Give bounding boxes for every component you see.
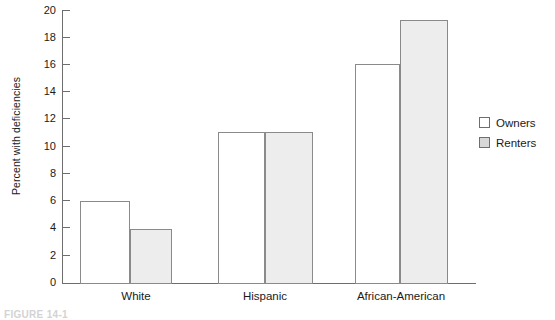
x-category-label-african-american: African-American (340, 290, 462, 302)
y-tick-mark (63, 146, 70, 147)
y-tick-20: 20 (16, 5, 56, 16)
y-tick-label: 4 (22, 222, 56, 233)
bar-hispanic-renters (265, 132, 313, 284)
bar-african-american-renters (400, 20, 448, 284)
y-tick-label: 10 (22, 141, 56, 152)
y-tick-8: 8 (16, 168, 56, 179)
y-tick-label: 0 (22, 277, 56, 288)
bar-white-renters (130, 229, 172, 284)
y-tick-label: 12 (22, 113, 56, 124)
figure-caption: FIGURE 14-1 (4, 309, 68, 320)
y-tick-16: 16 (16, 59, 56, 70)
y-tick-mark (63, 10, 70, 11)
y-tick-18: 18 (16, 32, 56, 43)
legend-item-renters: Renters (479, 134, 553, 151)
y-tick-mark (63, 118, 70, 119)
y-tick-0: 0 (16, 277, 56, 288)
x-category-label-white: White (86, 290, 186, 302)
bar-hispanic-owners (218, 132, 265, 284)
legend-label-owners: Owners (496, 117, 536, 129)
owners-swatch-icon (479, 117, 490, 128)
y-tick-label: 8 (22, 168, 56, 179)
y-tick-mark (63, 200, 70, 201)
y-tick-label: 6 (22, 195, 56, 206)
bar-african-american-owners (355, 64, 400, 284)
legend-item-owners: Owners (479, 114, 553, 131)
y-tick-mark (63, 173, 70, 174)
y-tick-12: 12 (16, 113, 56, 124)
y-tick-2: 2 (16, 250, 56, 261)
legend: Owners Renters (479, 114, 553, 154)
bar-white-owners (80, 201, 130, 284)
y-tick-label: 20 (22, 5, 56, 16)
legend-label-renters: Renters (496, 137, 536, 149)
y-tick-label: 18 (22, 32, 56, 43)
y-tick-label: 14 (22, 86, 56, 97)
y-tick-mark (63, 37, 70, 38)
y-tick-14: 14 (16, 86, 56, 97)
y-axis-line (62, 10, 63, 284)
y-tick-6: 6 (16, 195, 56, 206)
y-tick-mark (63, 227, 70, 228)
x-category-label-hispanic: Hispanic (215, 290, 315, 302)
y-tick-4: 4 (16, 222, 56, 233)
y-tick-mark (63, 91, 70, 92)
y-tick-mark (63, 64, 70, 65)
y-tick-label: 2 (22, 250, 56, 261)
y-tick-mark (63, 255, 70, 256)
y-tick-10: 10 (16, 141, 56, 152)
renters-swatch-icon (479, 137, 490, 148)
y-tick-label: 16 (22, 59, 56, 70)
